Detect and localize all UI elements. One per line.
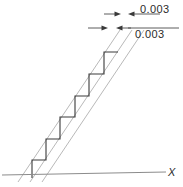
x-axis-label: X: [168, 166, 175, 178]
x-axis: [2, 172, 166, 175]
dimension-lower: [88, 26, 179, 31]
dimension-upper-arrow-left: [115, 12, 122, 17]
dimension-lower-arrow-right: [116, 26, 123, 31]
tolerance-line-1: [18, 30, 120, 182]
tolerance-diagram-figure: 0.003 0.003 X: [0, 0, 183, 187]
dimension-label-upper: 0.003: [140, 3, 170, 15]
tolerance-line-2: [30, 30, 132, 182]
dimension-label-lower: 0.003: [135, 28, 165, 40]
tolerance-zone-lines: [18, 30, 144, 182]
tolerance-line-3: [42, 30, 144, 182]
dimension-upper-arrow-right: [128, 12, 135, 17]
x-axis-baseline: [2, 172, 166, 175]
dimension-lower-arrow-left: [102, 26, 109, 31]
